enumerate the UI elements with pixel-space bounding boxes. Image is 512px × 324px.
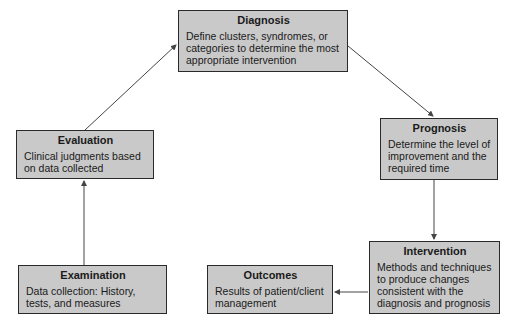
node-outcomes: Outcomes Results of patient/client manag… (207, 265, 333, 314)
node-examination: Examination Data collection: History, te… (18, 265, 167, 314)
node-description: Determine the level of improvement and t… (388, 138, 491, 174)
node-diagnosis: Diagnosis Define clusters, syndromes, or… (178, 10, 348, 72)
node-evaluation: Evaluation Clinical judgments based on d… (16, 130, 154, 179)
node-description: Define clusters, syndromes, or categorie… (186, 30, 341, 66)
node-description: Results of patient/client management (215, 285, 326, 309)
node-title: Diagnosis (186, 14, 341, 27)
node-title: Examination (26, 269, 160, 282)
node-intervention: Intervention Methods and techniques to p… (369, 241, 500, 314)
node-description: Clinical judgments based on data collect… (24, 150, 147, 174)
node-prognosis: Prognosis Determine the level of improve… (380, 118, 498, 180)
node-description: Methods and techniques to produce change… (377, 261, 493, 309)
arrow-evaluation-to-diagnosis (85, 45, 176, 130)
node-description: Data collection: History, tests, and mea… (26, 285, 160, 309)
node-title: Evaluation (24, 134, 147, 147)
arrow-diagnosis-to-prognosis (348, 46, 433, 116)
node-title: Prognosis (388, 122, 491, 135)
node-title: Intervention (377, 245, 493, 258)
node-title: Outcomes (215, 269, 326, 282)
